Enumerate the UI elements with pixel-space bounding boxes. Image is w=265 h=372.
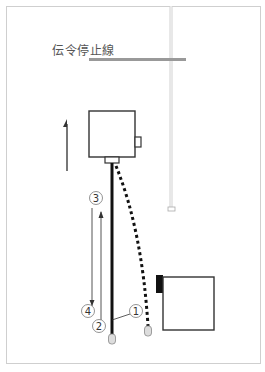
solid-path-end — [109, 334, 116, 344]
marker-2: 2 — [93, 320, 106, 333]
arrow-down-4 — [90, 208, 95, 306]
diagram-canvas: 3 4 2 1 — [0, 0, 265, 372]
upper-box — [89, 111, 141, 163]
lower-box — [156, 275, 214, 330]
svg-text:1: 1 — [133, 306, 139, 317]
svg-text:4: 4 — [85, 306, 91, 317]
svg-text:3: 3 — [93, 193, 99, 204]
svg-text:2: 2 — [96, 321, 102, 332]
stop-line — [89, 58, 186, 61]
dotted-path — [116, 166, 148, 326]
up-arrow-icon — [63, 119, 67, 171]
marker-4: 4 — [82, 305, 95, 318]
hanging-rope — [168, 6, 175, 211]
marker-3: 3 — [90, 192, 103, 205]
arrow-up-3 — [99, 211, 104, 320]
marker-1: 1 — [130, 305, 143, 318]
dotted-path-end — [145, 326, 152, 336]
marker-1-leader — [112, 314, 130, 320]
